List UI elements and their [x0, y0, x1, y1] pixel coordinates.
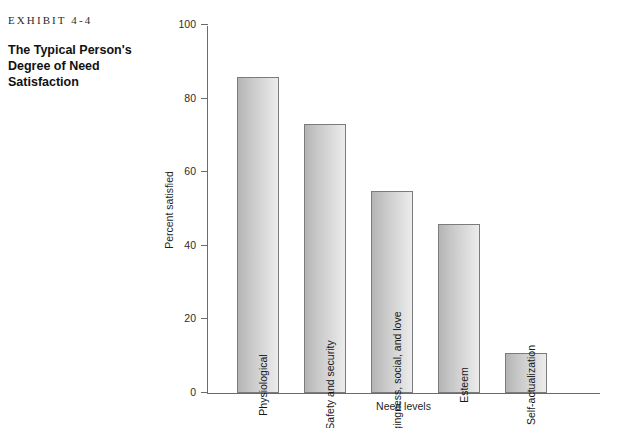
bar-group: Safety and security [304, 25, 346, 393]
bar-group: Physiological [237, 25, 279, 393]
y-axis-tick: 80 [201, 98, 208, 99]
y-axis-tick-label: 60 [184, 165, 196, 177]
y-axis-tick: 60 [201, 171, 208, 172]
bar-chart: Percent satisfied 020406080100Physiologi… [0, 0, 623, 428]
bar [237, 77, 279, 393]
bar-group: Esteem [438, 25, 480, 393]
bar-group: Self-actualization [505, 25, 547, 393]
y-axis-title: Percent satisfied [162, 26, 176, 394]
plot-area: 020406080100PhysiologicalSafety and secu… [207, 26, 600, 394]
y-axis-tick-label: 0 [190, 386, 196, 398]
y-axis-tick-label: 20 [184, 312, 196, 324]
y-axis-tick: 20 [201, 318, 208, 319]
y-axis-tick-label: 40 [184, 239, 196, 251]
x-axis-title: Need levels [207, 400, 600, 412]
y-axis-tick: 0 [201, 392, 208, 393]
y-axis-tick-label: 80 [184, 92, 196, 104]
y-axis-title-label: Percent satisfied [163, 171, 175, 249]
x-axis-title-label: Need levels [376, 400, 431, 412]
y-axis-tick: 40 [201, 245, 208, 246]
bar-group: Belongingness, social, and love [371, 25, 413, 393]
y-axis-tick: 100 [201, 24, 208, 25]
y-axis-tick-label: 100 [178, 18, 196, 30]
